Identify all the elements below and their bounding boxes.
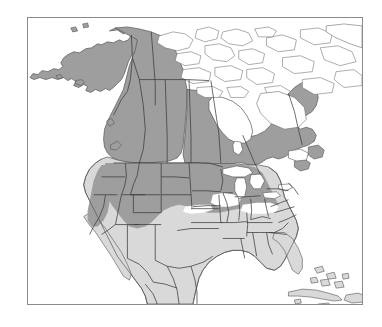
- island-small-north-b: [83, 23, 89, 28]
- island-bahama-f: [342, 273, 349, 279]
- figure-container: [0, 0, 382, 327]
- island-cayman: [294, 299, 301, 304]
- map-frame: [27, 17, 363, 305]
- island-bahama-d: [334, 281, 344, 288]
- north-america-range-map: [28, 18, 362, 304]
- island-bahama-c: [320, 279, 330, 286]
- gap-ohio-valley: [241, 203, 279, 214]
